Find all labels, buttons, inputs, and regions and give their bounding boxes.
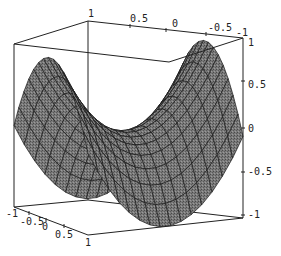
- right-tick-label-3: -0.5: [248, 166, 272, 177]
- bottom-tick-label-4: 1: [85, 237, 91, 248]
- top-tick-label-4: -1: [236, 27, 248, 38]
- right-tick-label-1: 0.5: [248, 79, 266, 90]
- bottom-tick-label-3: 0.5: [55, 229, 73, 240]
- bottom-tick-label-1: -0.5: [20, 216, 44, 227]
- right-axis-tick-labels: 10.50-0.5-1: [248, 37, 272, 220]
- bottom-axis-tick-labels: -1-0.500.51: [6, 208, 91, 248]
- bottom-tick-label-0: -1: [6, 208, 18, 219]
- bottom-tick-label-2: 0: [42, 221, 48, 232]
- right-tick-label-0: 1: [248, 37, 254, 48]
- top-tick-label-0: 1: [88, 8, 94, 19]
- top-tick-label-2: 0: [172, 18, 178, 29]
- top-tick-label-1: 0.5: [130, 13, 148, 24]
- saddle-surface: [14, 40, 243, 226]
- saddle-surface-plot: 10.50-0.5-1 10.50-0.5-1 -1-0.500.51: [0, 0, 281, 256]
- right-tick-label-4: -1: [248, 209, 260, 220]
- right-tick-label-2: 0: [248, 123, 254, 134]
- top-axis-tick-labels: 10.50-0.5-1: [88, 8, 248, 38]
- top-tick-label-3: -0.5: [208, 22, 232, 33]
